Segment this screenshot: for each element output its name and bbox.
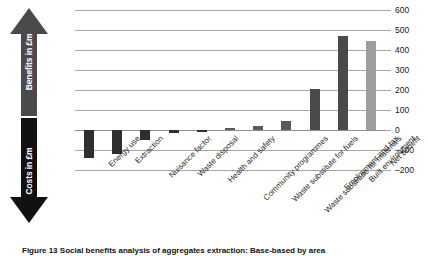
y-tick-200: 200 [385,84,409,96]
y-tick-label: –200 [395,165,414,175]
y-tick-mark [385,90,391,91]
y-tick-label: 200 [395,85,409,95]
bar[interactable] [84,130,94,158]
figure-container: Benefits in £m Costs in £m 6005004003002… [0,0,428,256]
y-tick-mark [385,50,391,51]
y-tick-mark [385,10,391,11]
bar[interactable] [366,41,376,130]
y-tick-mark [385,30,391,31]
benefits-arrow: Benefits in £m [10,8,48,116]
bar[interactable] [338,36,348,130]
figure-caption: Figure 13 Social benefits analysis of ag… [22,246,422,255]
y-tick-100: 100 [385,104,409,116]
bar[interactable] [197,130,207,132]
costs-arrow: Costs in £m [10,118,48,223]
y-tick-300: 300 [385,64,409,76]
gridline--200 [75,170,385,171]
y-tick-400: 400 [385,44,409,56]
y-tick-mark [385,70,391,71]
bar[interactable] [140,130,150,140]
bar[interactable] [169,130,179,133]
bar[interactable] [310,89,320,130]
y-tick-label: 100 [395,105,409,115]
axis-direction-arrows: Benefits in £m Costs in £m [6,8,52,223]
y-tick-label: 300 [395,65,409,75]
benefits-arrow-icon [10,8,48,116]
y-tick-label: 500 [395,25,409,35]
bar[interactable] [281,121,291,130]
y-tick-600: 600 [385,4,409,16]
y-tick-mark [385,130,391,131]
bar[interactable] [225,128,235,130]
costs-arrow-icon [10,118,48,223]
y-tick-500: 500 [385,24,409,36]
bar[interactable] [253,126,263,130]
y-tick-label: 600 [395,5,409,15]
y-tick-mark [385,110,391,111]
y-tick-label: 400 [395,45,409,55]
